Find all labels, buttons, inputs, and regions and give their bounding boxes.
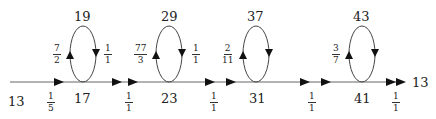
frac-den: 1: [193, 55, 199, 65]
frac-num: 1: [210, 92, 218, 103]
loop-label-37: 37: [247, 10, 264, 23]
frac-num: 1: [192, 44, 200, 55]
diagram-canvas: [0, 0, 436, 119]
edge-frac-4: 1 1: [308, 92, 316, 113]
loop-29-right-frac: 1 1: [192, 44, 200, 65]
node-label-31: 31: [249, 92, 266, 105]
frac-den: 1: [211, 103, 217, 113]
loop-43-left-frac: 3 7: [332, 44, 340, 65]
frac-num: 1: [392, 92, 400, 103]
frac-num: 1: [308, 92, 316, 103]
frac-num: 1: [104, 44, 112, 55]
frac-num: 1: [47, 92, 55, 103]
loop-29: [152, 26, 186, 82]
frac-den: 1: [126, 103, 132, 113]
node-label-23: 23: [161, 92, 178, 105]
loop-43: [345, 26, 379, 82]
loop-label-29: 29: [161, 10, 178, 23]
frac-num: 77: [134, 44, 147, 55]
frac-num: 7: [53, 44, 61, 55]
loop-37: [239, 26, 273, 82]
frac-num: 2: [224, 44, 232, 55]
start-label: 13: [8, 95, 25, 108]
frac-num: 3: [332, 44, 340, 55]
frac-den: 1: [105, 55, 111, 65]
edge-frac-3: 1 1: [210, 92, 218, 113]
frac-den: 1: [309, 103, 315, 113]
node-label-41: 41: [354, 92, 371, 105]
frac-den: 3: [138, 55, 144, 65]
frac-den: 7: [333, 55, 339, 65]
frac-den: 11: [222, 55, 233, 65]
end-label: 13: [412, 76, 429, 89]
loop-19-left-frac: 7 2: [53, 44, 61, 65]
frac-den: 1: [393, 103, 399, 113]
edge-frac-1: 1 5: [47, 92, 55, 113]
node-label-17: 17: [74, 92, 91, 105]
loop-label-43: 43: [353, 10, 370, 23]
loop-label-19: 19: [74, 10, 91, 23]
loop-19-right-frac: 1 1: [104, 44, 112, 65]
frac-den: 5: [48, 103, 54, 113]
loop-29-left-frac: 77 3: [134, 44, 147, 65]
edge-frac-2: 1 1: [125, 92, 133, 113]
loop-19: [66, 26, 100, 82]
loop-37-left-frac: 2 11: [222, 44, 233, 65]
edge-frac-5: 1 1: [392, 92, 400, 113]
frac-num: 1: [125, 92, 133, 103]
frac-den: 2: [54, 55, 60, 65]
